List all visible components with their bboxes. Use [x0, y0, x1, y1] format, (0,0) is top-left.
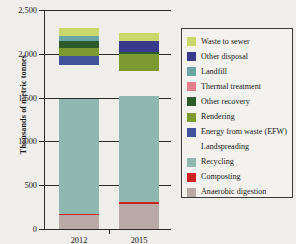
- plot-area: 05001,0001,5002,0002,500 20122015: [44, 10, 171, 230]
- bar-segment: [59, 99, 99, 213]
- legend-item-label: Landfill: [201, 68, 227, 76]
- x-tick-label: 2015: [131, 236, 148, 244]
- bar-segment: [59, 28, 99, 36]
- y-tick-label: 0: [33, 225, 37, 234]
- bar-segment: [119, 33, 159, 42]
- legend-swatch-icon: [187, 82, 196, 91]
- legend-swatch-icon: [187, 113, 196, 122]
- legend-item[interactable]: Thermal treatment: [187, 79, 292, 94]
- y-tick-label: 500: [24, 181, 37, 190]
- y-tick-mark: [39, 229, 45, 230]
- bar-segment: [119, 204, 159, 229]
- y-tick-label: 1,000: [18, 137, 37, 146]
- bar-segment: [119, 71, 159, 96]
- bar-2015: [119, 33, 159, 229]
- y-tick-label: 2,500: [18, 6, 37, 15]
- x-tick-label: 2012: [71, 236, 88, 244]
- legend-item-label: Composting: [201, 173, 241, 181]
- legend-item[interactable]: Waste to sewer: [187, 34, 292, 49]
- legend-item-label: Other recovery: [201, 98, 250, 106]
- bar-segment: [119, 96, 159, 203]
- legend-swatch-icon: [187, 143, 196, 152]
- legend-item-label: Landspreading: [201, 143, 249, 151]
- y-tick-label: 1,500: [18, 93, 37, 102]
- legend-item-label: Waste to sewer: [201, 38, 250, 46]
- legend-item-label: Thermal treatment: [201, 83, 261, 91]
- legend-item[interactable]: Composting: [187, 170, 292, 185]
- bar-segment: [59, 215, 99, 229]
- legend-item-label: Recycling: [201, 158, 234, 166]
- legend-item[interactable]: Anaerobic digestion: [187, 185, 292, 200]
- bar-segment: [119, 54, 159, 70]
- legend-item[interactable]: Recycling: [187, 155, 292, 170]
- legend-swatch-icon: [187, 97, 196, 106]
- stacked-bar-chart: Thousands of metric tonnes 05001,0001,50…: [0, 0, 296, 244]
- legend-item[interactable]: Other recovery: [187, 94, 292, 109]
- bar-segment: [59, 48, 99, 56]
- y-tick-label: 2,000: [18, 49, 37, 58]
- y-tick-rule: [45, 10, 171, 11]
- legend-swatch-icon: [187, 188, 196, 197]
- legend-swatch-icon: [187, 67, 196, 76]
- legend-item-label: Energy from waste (EFW): [201, 128, 287, 136]
- legend-item-label: Other disposal: [201, 53, 248, 61]
- legend-item[interactable]: Landspreading: [187, 140, 292, 155]
- x-tick-mark: [109, 229, 110, 234]
- bar-segment: [59, 65, 99, 99]
- legend-item[interactable]: Rendering: [187, 109, 292, 124]
- legend-swatch-icon: [187, 158, 196, 167]
- bar-segment: [59, 41, 99, 48]
- legend-swatch-icon: [187, 173, 196, 182]
- legend-item[interactable]: Energy from waste (EFW): [187, 125, 292, 140]
- bar-segment: [119, 41, 159, 52]
- legend-item[interactable]: Other disposal: [187, 49, 292, 64]
- bar-segment: [59, 56, 99, 65]
- legend-item[interactable]: Landfill: [187, 64, 292, 79]
- bar-2012: [59, 28, 99, 229]
- chart-legend: Waste to sewerOther disposalLandfillTher…: [181, 28, 293, 198]
- legend-item-label: Anaerobic digestion: [201, 188, 266, 196]
- legend-item-label: Rendering: [201, 113, 235, 121]
- legend-swatch-icon: [187, 128, 196, 137]
- legend-swatch-icon: [187, 52, 196, 61]
- legend-swatch-icon: [187, 37, 196, 46]
